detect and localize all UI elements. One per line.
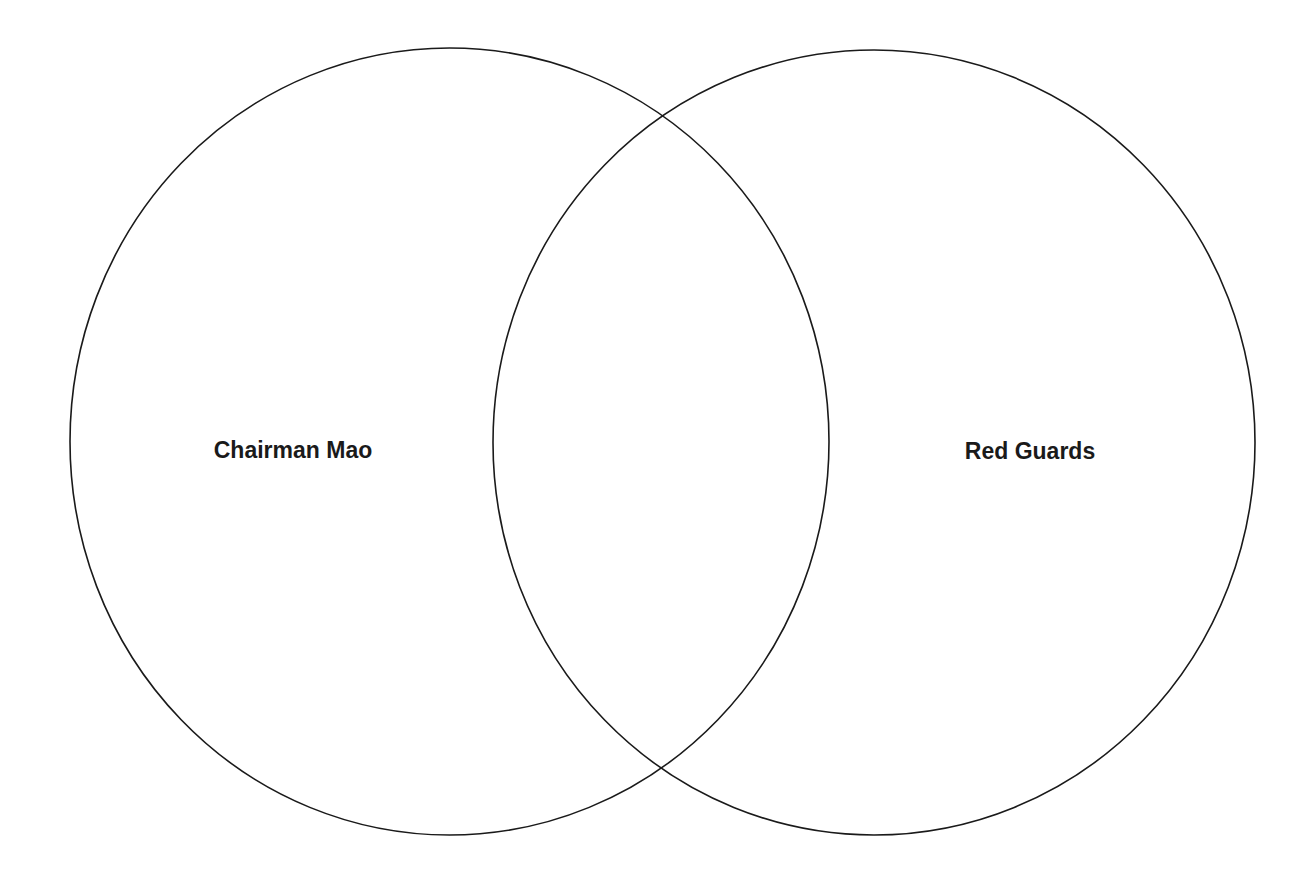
set-label-chairman-mao: Chairman Mao xyxy=(214,437,372,463)
venn-diagram: Chairman Mao Red Guards xyxy=(0,0,1312,873)
canvas-background xyxy=(0,0,1312,873)
set-label-red-guards: Red Guards xyxy=(965,438,1095,464)
